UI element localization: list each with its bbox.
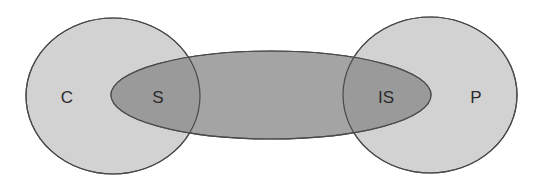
label-p: P <box>470 88 481 107</box>
label-s: S <box>152 88 163 107</box>
label-c: C <box>61 88 73 107</box>
venn-diagram: C S IS P <box>0 0 542 186</box>
label-is: IS <box>378 88 394 107</box>
